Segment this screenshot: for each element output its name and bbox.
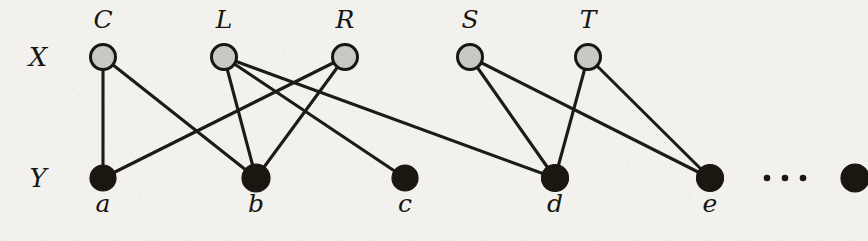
ellipsis-group: [764, 175, 807, 182]
node-label-L: L: [215, 5, 233, 34]
bipartite-graph-figure: CLRSTabcde X Y: [0, 0, 868, 241]
row-label-y: Y: [29, 163, 49, 193]
bottom-node-z[interactable]: [841, 164, 868, 192]
node-label-a: a: [96, 189, 111, 218]
ellipsis-dot: [764, 175, 771, 182]
bottom-node-d[interactable]: [542, 165, 569, 192]
bottom-node-b[interactable]: [242, 164, 270, 192]
ellipsis-dot: [782, 175, 789, 182]
graph-edge-C-b: [103, 57, 256, 178]
top-nodes-group: [91, 45, 601, 70]
top-node-L[interactable]: [212, 45, 237, 70]
node-label-c: c: [398, 189, 412, 218]
row-label-x: X: [27, 42, 49, 72]
graph-edge-R-a: [103, 57, 345, 178]
edges-group: [103, 57, 710, 178]
top-node-R[interactable]: [333, 45, 358, 70]
graph-edge-T-d: [555, 57, 588, 178]
top-node-T[interactable]: [576, 45, 601, 70]
node-label-S: S: [461, 5, 478, 34]
node-label-C: C: [93, 5, 112, 34]
node-label-d: d: [547, 189, 563, 218]
top-node-C[interactable]: [91, 45, 116, 70]
node-label-b: b: [248, 189, 264, 218]
bottom-node-c[interactable]: [392, 165, 418, 191]
node-label-R: R: [335, 5, 355, 34]
graph-canvas: CLRSTabcde X Y: [0, 0, 868, 241]
node-label-e: e: [703, 189, 718, 218]
bottom-nodes-group: [90, 164, 868, 192]
ellipsis-dot: [800, 175, 807, 182]
bottom-node-a[interactable]: [90, 165, 116, 191]
graph-edge-T-e: [588, 57, 710, 178]
graph-edge-S-d: [470, 57, 555, 178]
node-label-T: T: [580, 5, 599, 34]
bottom-node-e[interactable]: [697, 165, 724, 192]
top-node-S[interactable]: [458, 45, 483, 70]
